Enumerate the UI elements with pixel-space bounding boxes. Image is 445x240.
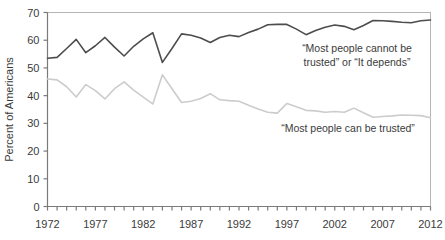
can-be-trusted-label: “Most people can be trusted” [281,122,415,134]
annotation-line: “Most people cannot be [302,42,412,54]
y-tick-label: 0 [33,201,39,213]
x-tick-label: 1972 [35,218,59,230]
axis-titles-group: Percent of Americans [3,57,15,162]
x-tick-label: 1987 [179,218,203,230]
annotation-line: “Most people can be trusted” [281,122,415,134]
x-tick-label: 1992 [227,218,251,230]
line-chart: 010203040506070 197219771982198719921997… [0,0,445,240]
y-tick-label: 70 [27,7,39,19]
y-axis-title: Percent of Americans [3,57,15,162]
y-tick-label: 10 [27,173,39,185]
y-tick-label: 40 [27,90,39,102]
chart-container: 010203040506070 197219771982198719921997… [0,0,445,240]
chart-background [0,0,445,240]
x-tick-label: 1982 [131,218,155,230]
x-tick-label: 2007 [370,218,394,230]
x-tick-label: 1977 [83,218,107,230]
y-tick-label: 50 [27,62,39,74]
y-tick-label: 20 [27,145,39,157]
x-tick-label: 2012 [418,218,442,230]
x-tick-label: 1997 [275,218,299,230]
y-tick-label: 30 [27,117,39,129]
y-tick-label: 60 [27,34,39,46]
x-tick-label: 2002 [323,218,347,230]
annotation-line: trusted” or “It depends” [304,56,411,68]
